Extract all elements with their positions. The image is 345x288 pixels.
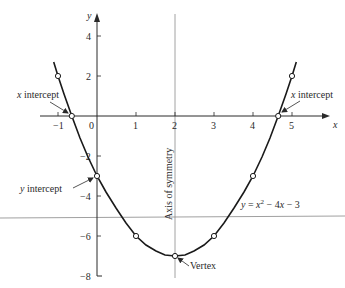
x-tick-label: −1 — [53, 120, 64, 131]
y-axis-arrow-icon — [94, 13, 100, 22]
point-marker — [133, 233, 138, 238]
y-ticks — [97, 36, 101, 236]
x-ticks — [58, 112, 292, 116]
x-intercept-right-marker — [276, 113, 281, 118]
vertex-marker — [172, 253, 177, 258]
y-tick-label: 2 — [86, 71, 91, 82]
x-tick-label: 1 — [133, 120, 138, 131]
x-tick-label: 0 — [89, 120, 94, 131]
x-tick-label: 2 — [172, 120, 177, 131]
x-axis-arrow-icon — [322, 113, 330, 119]
y-intercept-arrow-icon — [73, 178, 93, 188]
x-tick-label: 4 — [250, 120, 255, 131]
x-intercept-left-marker — [69, 113, 74, 118]
vertex-label: Vertex — [190, 260, 216, 271]
x-intercept-left-label: x intercept — [16, 89, 59, 100]
x-intercept-right-label: x intercept — [290, 89, 333, 100]
y-tick-label: −6 — [80, 231, 91, 242]
equation-label: y = x2 − 4x − 3 — [240, 198, 300, 210]
y-axis-label: y — [86, 10, 92, 21]
point-marker — [250, 173, 255, 178]
point-marker — [211, 233, 216, 238]
y-tick-label: 4 — [86, 31, 91, 42]
parabola-diagram: Axis of symmetry x y −1 0 1 2 3 4 5 4 2 … — [0, 0, 345, 288]
y-intercept-marker — [94, 173, 99, 178]
y-tick-label: −4 — [80, 191, 91, 202]
x-tick-label: 5 — [289, 120, 294, 131]
point-marker — [289, 73, 294, 78]
x-intercept-left-arrow-icon — [50, 102, 68, 113]
y-intercept-label: y intercept — [19, 183, 62, 194]
x-axis-label: x — [332, 119, 338, 130]
vertex-arrow-icon — [178, 258, 189, 266]
axis-of-symmetry-label: Axis of symmetry — [163, 148, 174, 220]
point-marker — [55, 73, 60, 78]
x-tick-label: 3 — [211, 120, 216, 131]
x-intercept-right-arrow-icon — [282, 101, 300, 112]
y-tick-label: −8 — [80, 271, 91, 282]
